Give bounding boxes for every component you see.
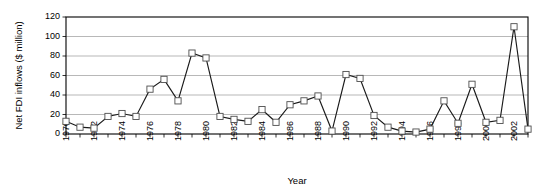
y-tick-label: 0 (55, 128, 60, 138)
x-tick-label: 2002 (509, 121, 519, 141)
data-point-marker (343, 71, 349, 77)
data-point-marker (469, 81, 475, 87)
data-point-marker (455, 120, 461, 126)
y-axis-title: Net FDI inflows ($ million) (13, 21, 24, 129)
y-tick-label: 20 (50, 109, 60, 119)
x-tick-label: 1990 (341, 121, 351, 141)
data-point-marker (259, 107, 265, 113)
x-tick-label: 1974 (117, 121, 127, 141)
x-tick-label: 1986 (285, 121, 295, 141)
data-point-marker (245, 118, 251, 124)
data-point-marker (301, 98, 307, 104)
data-markers (63, 24, 531, 135)
data-point-marker (357, 75, 363, 81)
data-point-marker (63, 118, 69, 124)
data-point-marker (525, 126, 531, 132)
data-point-marker (77, 124, 83, 130)
x-tick-label: 1984 (257, 121, 267, 141)
x-tick-label: 1988 (313, 121, 323, 141)
data-point-marker (175, 98, 181, 104)
data-point-marker (427, 126, 433, 132)
data-point-marker (273, 119, 279, 125)
x-tick-label: 1980 (201, 121, 211, 141)
data-point-marker (371, 112, 377, 118)
y-tick-label: 80 (50, 50, 60, 60)
y-axis-tick-labels: 020406080100120 (45, 11, 60, 138)
data-point-marker (217, 113, 223, 119)
data-point-marker (119, 110, 125, 116)
data-point-marker (399, 128, 405, 134)
fdi-line-chart: 020406080100120 197019721974197619781980… (0, 0, 543, 192)
data-point-marker (483, 119, 489, 125)
data-point-marker (511, 24, 517, 30)
x-tick-label: 1978 (173, 121, 183, 141)
data-point-marker (385, 124, 391, 130)
data-point-marker (329, 128, 335, 134)
x-tick-label: 1976 (145, 121, 155, 141)
y-tick-label: 100 (45, 31, 60, 41)
chart-canvas: 020406080100120 197019721974197619781980… (0, 0, 543, 192)
data-point-marker (497, 117, 503, 123)
data-point-marker (105, 113, 111, 119)
y-tick-label: 40 (50, 89, 60, 99)
data-point-marker (189, 50, 195, 56)
data-point-marker (147, 86, 153, 92)
data-point-marker (315, 93, 321, 99)
x-tick-label: 1992 (369, 121, 379, 141)
x-axis-title: Year (287, 175, 306, 186)
data-point-marker (203, 55, 209, 61)
data-point-marker (231, 116, 237, 122)
x-tick-label: 1982 (229, 121, 239, 141)
y-tick-label: 120 (45, 11, 60, 21)
y-tick-label: 60 (50, 70, 60, 80)
data-point-marker (161, 76, 167, 82)
x-axis-tick-labels: 1970197219741976197819801982198419861988… (61, 121, 519, 141)
data-point-marker (287, 102, 293, 108)
data-point-marker (133, 113, 139, 119)
data-point-marker (91, 125, 97, 131)
data-point-marker (441, 98, 447, 104)
data-point-marker (413, 129, 419, 135)
